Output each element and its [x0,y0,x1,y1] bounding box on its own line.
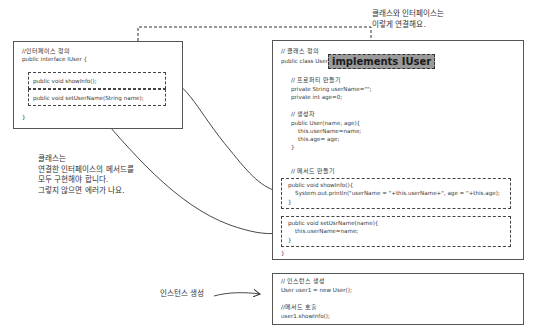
left-annotation: 클래스는 연결한 인터페이스의 메서드를 모두 구현해야 합니다. 그렇지 않으… [38,154,134,196]
constructor-comment: // 생성자 [291,110,315,118]
class-comment: // 클래스 정의 [281,47,319,55]
constructor-line-1: public User(name, age){ [291,119,360,127]
class-declaration-prefix: public class User [281,57,328,65]
left-annotation-line-2: 연결한 인터페이스의 메서드를 [38,165,134,174]
call-comment: //메서드 호출 [281,303,317,311]
class-method-showinfo: public void showInfo(){ System.out.print… [281,178,511,209]
method-comment: // 메서드 만들기 [291,167,335,175]
constructor-line-2: this.userName=name; [291,127,361,135]
instance-comment: // 인스턴스 생성 [281,277,325,285]
property-username: private String userName=""; [291,85,371,93]
interface-declaration: public interface IUser { [22,55,87,63]
property-age: private int age=0; [291,93,342,101]
constructor-line-4: } [291,143,295,151]
showinfo-line-2: System.out.println("userName = "+this.us… [288,189,500,197]
interface-method-showinfo-text: public void showInfo(); [33,77,97,85]
showinfo-line-3: } [288,198,292,206]
instance-arrow [214,293,260,296]
interface-method-showinfo: public void showInfo(); [28,72,166,89]
top-annotation-line-1: 클래스와 인터페이스는 [372,9,444,18]
implements-highlight: implements IUser [328,54,435,69]
setusername-line-3: } [288,236,292,244]
class-closing: } [281,249,285,257]
top-annotation: 클래스와 인터페이스는 이렇게 연결해요. [372,9,444,30]
call-code: user1.showInfo(); [281,312,330,320]
interface-method-setusername-text: public void setUserName(String name); [33,94,144,102]
instance-code: User user1 = new User(); [281,286,352,294]
left-annotation-line-4: 그렇지 않으면 에러가 나요. [38,186,125,195]
class-declaration-suffix: { [421,57,425,65]
class-box: // 클래스 정의 public class User implements I… [272,40,524,260]
usage-box: // 인스턴스 생성 User user1 = new User(); //메서… [272,273,524,325]
interface-box: //인터페이스 정의 public interface IUser { publ… [13,41,183,129]
interface-closing: } [22,113,26,121]
property-comment: // 프로퍼티 만들기 [291,76,341,84]
left-annotation-line-1: 클래스는 [38,154,66,163]
showinfo-line-1: public void showInfo(){ [288,181,353,189]
class-method-setusername: public void setUsrName(name){ this.userN… [281,216,511,247]
setusername-line-2: this.userName=name; [288,227,358,235]
top-annotation-line-2: 이렇게 연결해요. [372,20,426,29]
interface-comment: //인터페이스 정의 [22,47,70,55]
setusername-line-1: public void setUsrName(name){ [288,219,378,227]
interface-method-setusername: public void setUserName(String name); [28,89,166,106]
instance-annotation: 인스턴스 생성 [160,289,204,300]
left-annotation-line-3: 모두 구현해야 합니다. [38,175,108,184]
constructor-line-3: this.age= age; [291,135,339,143]
